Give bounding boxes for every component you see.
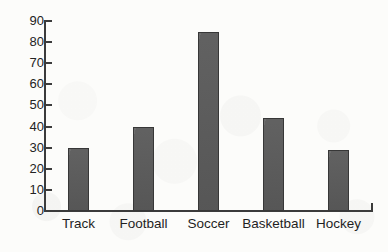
bar-track [68,148,89,211]
y-axis-tick [46,168,52,170]
y-axis-tick-label: 40 [10,120,44,133]
y-axis-tick [46,20,52,22]
y-axis-tick-label: 50 [10,98,44,111]
y-axis-tick-label: 20 [10,162,44,175]
y-axis-tick-label: 60 [10,77,44,90]
y-axis-line [44,20,46,212]
y-axis-tick [46,189,52,191]
plot-area: 0102030405060708090 TrackFootballSoccerB… [0,0,388,252]
y-axis-tick [46,41,52,43]
bar-basketball [263,118,284,211]
y-axis-tick [46,210,52,212]
y-axis-tick [46,104,52,106]
x-axis-right-cap [371,203,373,212]
y-axis-tick [46,147,52,149]
bar-football [133,127,154,211]
bar-chart: 0102030405060708090 TrackFootballSoccerB… [0,0,388,252]
x-axis-label-hockey: Hockey [284,216,388,232]
y-axis-tick-label: 30 [10,141,44,154]
y-axis-tick [46,83,52,85]
bar-hockey [328,150,349,211]
y-axis-tick-label: 10 [10,183,44,196]
y-axis-tick [46,126,52,128]
y-axis-tick-label: 90 [10,14,44,27]
bar-soccer [198,32,219,211]
y-axis-tick [46,62,52,64]
y-axis-tick-label: 80 [10,35,44,48]
y-axis-tick-label: 70 [10,56,44,69]
